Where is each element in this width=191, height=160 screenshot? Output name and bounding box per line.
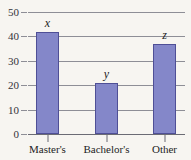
xtick-other [164,134,165,142]
ytick-label-10: 10 [8,104,19,115]
plot-area: 50 40 30 20 10 0 x y z [28,12,185,134]
xtick-bachelors [106,134,107,142]
ytick-label-50: 50 [8,7,19,18]
xtick-masters [47,134,48,142]
tick-stub-20 [21,85,27,86]
bar-other [153,44,176,134]
bar-label-x: x [45,17,50,29]
xtick-label-other: Other [152,144,177,155]
bar-masters [36,32,59,134]
ytick-label-40: 40 [8,31,19,42]
bar-label-y: y [104,68,109,80]
tick-stub-40 [21,36,27,37]
xtick-label-masters: Master's [29,144,66,155]
ytick-label-30: 30 [8,55,19,66]
tick-stub-0 [21,134,27,135]
xtick-label-bachelors: Bachelor's [84,144,130,155]
bar-bachelors [95,83,118,134]
bar-chart: 50 40 30 20 10 0 x y z [0,0,191,160]
bar-label-z: z [162,29,167,41]
tick-stub-10 [21,110,27,111]
tick-stub-30 [21,61,27,62]
ytick-label-0: 0 [14,129,20,140]
gridline-50: 50 [28,12,185,13]
ytick-label-20: 20 [8,80,19,91]
tick-stub-50 [21,12,27,13]
